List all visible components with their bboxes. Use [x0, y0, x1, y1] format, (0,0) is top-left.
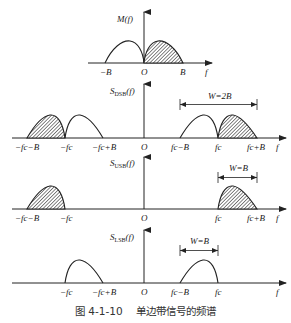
tick-origin: O [141, 142, 148, 152]
figure-title: 单边带信号的频谱 [136, 305, 216, 317]
tick-fc-plus-b: fc+B [247, 213, 266, 223]
y-axis-label: M(f) [116, 14, 133, 24]
tick-fc: fc [215, 142, 222, 152]
tick-b: B [180, 67, 186, 77]
panel-lsb: W=B SLSB(f) −fc −fc+B O fc−B fc f [12, 230, 286, 297]
tick-neg-fc: −fc [60, 213, 73, 223]
tick-f: f [276, 213, 280, 223]
bandwidth-label: W=B [190, 236, 210, 246]
tick-neg-fc-minus-b: −fc−B [15, 142, 40, 152]
tick-fc-minus-b: fc−B [171, 287, 190, 297]
y-axis-label: SUSB(f) [110, 158, 135, 169]
tick-neg-fc: −fc [60, 142, 73, 152]
bandwidth-label: W=B [229, 163, 249, 173]
positive-lobe-shaded [144, 41, 183, 63]
neg-usb-lobe [65, 115, 103, 138]
tick-f: f [205, 67, 209, 77]
y-axis-label: SDSB(f) [110, 86, 135, 97]
bandwidth-label: W=2B [208, 91, 232, 101]
tick-neg-fc: −fc [60, 287, 73, 297]
tick-neg-fc-minus-b: −fc−B [15, 213, 40, 223]
tick-neg-fc-plus-b: −fc+B [92, 142, 117, 152]
pos-lsb-lobe [180, 115, 218, 138]
y-axis-label: SLSB(f) [110, 232, 134, 243]
negative-lobe [105, 41, 144, 63]
figure-caption: 图 4-1-10 单边带信号的频谱 [0, 303, 291, 318]
tick-fc: fc [215, 287, 222, 297]
tick-origin: O [141, 67, 148, 77]
neg-lsb-lobe [65, 260, 103, 283]
tick-neg-b: −B [100, 67, 112, 77]
panel-dsb: W=2B SDSB(f) −fc−B −fc −fc+B O fc−B fc f… [12, 84, 286, 152]
pos-usb-shaded [218, 115, 257, 138]
tick-fc: fc [215, 213, 222, 223]
tick-f: f [276, 287, 280, 297]
tick-neg-fc-plus-b: −fc+B [92, 287, 117, 297]
pos-lsb-lobe [180, 260, 218, 283]
panel-baseband: M(f) −B O B f [88, 12, 212, 77]
tick-f: f [276, 142, 280, 152]
figure-number: 图 4-1-10 [75, 305, 123, 317]
tick-fc-minus-b: fc−B [171, 142, 190, 152]
ssb-spectrum-figure: M(f) −B O B f W=2B SDSB(f) −fc−B −fc −fc… [0, 0, 291, 323]
tick-fc-plus-b: fc+B [247, 142, 266, 152]
tick-origin: O [141, 213, 148, 223]
panel-usb: W=B SUSB(f) −fc−B −fc O fc fc+B f [12, 157, 286, 223]
pos-usb-shaded [218, 186, 257, 209]
tick-origin: O [141, 287, 148, 297]
neg-lsb-shaded [27, 115, 65, 138]
neg-usb-shaded [27, 186, 65, 209]
